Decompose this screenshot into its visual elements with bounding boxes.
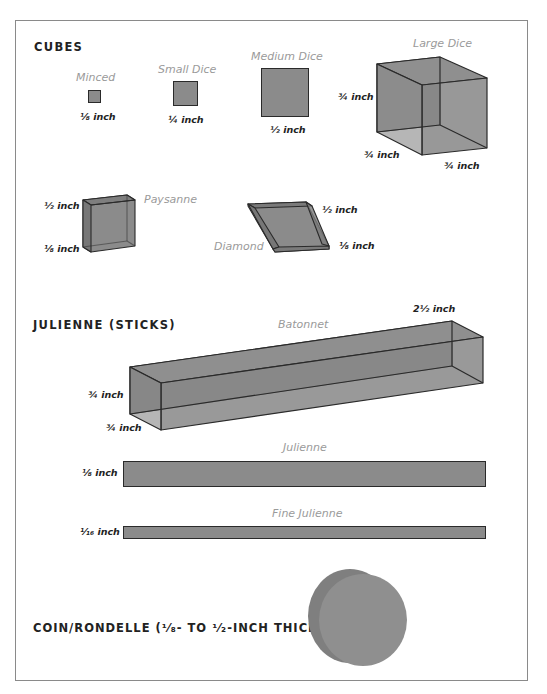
coin-rondelle [0,0,547,694]
